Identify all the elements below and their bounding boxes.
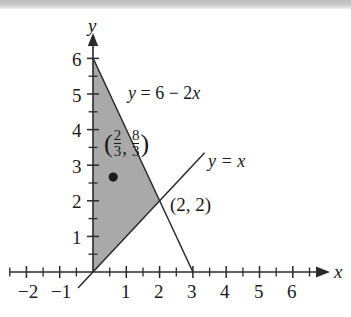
- x-tick-label-3: 3: [187, 282, 197, 301]
- x-tick-label-5: 5: [254, 282, 264, 301]
- intersection-point-label: (2, 2): [170, 195, 211, 214]
- fraction-coordinate-label: ( 2 3 , 8 3 ): [104, 128, 149, 160]
- figure-canvas: −2 −1 1 2 3 4 5 6 1 2 3 4 5 6 x y y = 6 …: [0, 0, 351, 317]
- y-tick-label-2: 2: [72, 192, 82, 211]
- fraction-denominator: 3: [114, 143, 122, 159]
- fraction-denominator: 3: [132, 143, 140, 159]
- y-tick-label-1: 1: [72, 228, 82, 247]
- y-tick-label-4: 4: [72, 121, 82, 140]
- x-axis-arrowhead: [316, 267, 330, 278]
- x-axis-label: x: [334, 262, 342, 281]
- equation-label-line2: y = x: [208, 152, 245, 170]
- fraction-numerator: 2: [114, 128, 122, 143]
- open-paren: (: [104, 129, 113, 159]
- coefficient-2: 2: [183, 83, 192, 103]
- coordinate-comma: ,: [122, 137, 127, 160]
- fraction-numerator: 8: [132, 128, 140, 143]
- equation-lhs: y: [128, 83, 136, 103]
- x-tick-label-2: 2: [154, 282, 164, 301]
- fraction-two-thirds: 2 3: [114, 128, 122, 160]
- close-paren: ): [140, 129, 149, 159]
- y-axis-label: y: [88, 16, 96, 35]
- x-tick-label-minus2: −2: [18, 282, 38, 301]
- x-tick-label-minus1: −1: [51, 282, 71, 301]
- equals-sign: =: [141, 83, 151, 103]
- x-tick-label-6: 6: [287, 282, 297, 301]
- variable-x: x: [192, 83, 200, 103]
- equation-label-line1: y = 6 − 2x: [128, 84, 200, 102]
- x-tick-label-4: 4: [220, 282, 230, 301]
- x-tick-label-1: 1: [121, 282, 131, 301]
- data-point-marker: [109, 173, 118, 182]
- minus-sign: −: [169, 83, 179, 103]
- y-tick-label-3: 3: [72, 157, 82, 176]
- fraction-eight-thirds: 8 3: [132, 128, 140, 160]
- constant-6: 6: [155, 83, 164, 103]
- plot-area: [0, 0, 351, 317]
- y-tick-label-5: 5: [72, 86, 82, 105]
- y-tick-label-6: 6: [72, 50, 82, 69]
